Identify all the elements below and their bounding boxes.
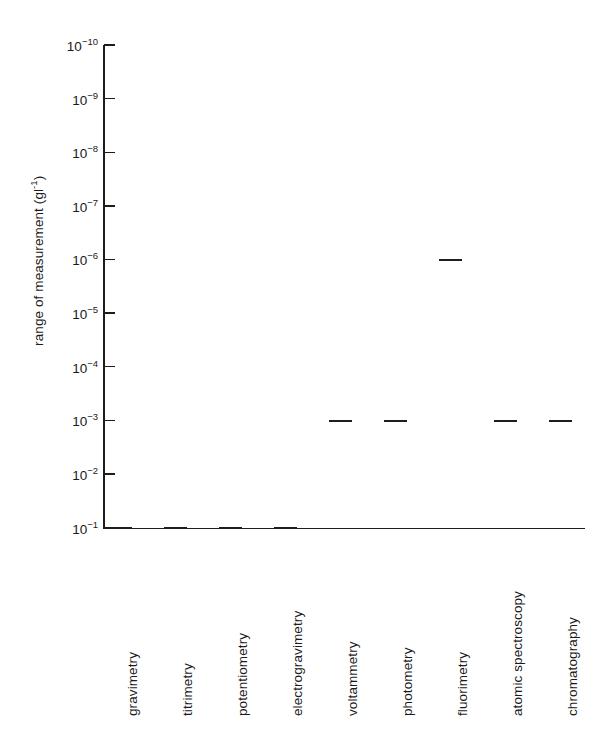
range-of-measurement-chart: range of measurement (gl-1) 10−1010−910−… xyxy=(0,0,607,736)
y-axis-tick-10 xyxy=(104,44,115,45)
category-label-photometry: photometry xyxy=(400,647,415,716)
y-axis-tick-label-6: 10−6 xyxy=(72,250,98,268)
y-axis-tick-label-7: 10−7 xyxy=(72,197,98,215)
y-axis-tick-label-8: 10−8 xyxy=(72,143,98,161)
y-axis-tick-label-10: 10−10 xyxy=(67,36,98,54)
category-label-gravimetry: gravimetry xyxy=(125,652,140,716)
y-axis-tick-label-4: 10−4 xyxy=(72,358,98,376)
y-axis-line xyxy=(103,45,105,529)
y-axis-tick-label-9: 10−9 xyxy=(72,90,98,108)
range-bar-lower-cap xyxy=(274,527,297,529)
category-label-fluorimetry: fluorimetry xyxy=(455,652,470,716)
range-bar-lower-cap xyxy=(494,420,517,422)
y-axis-tick-label-5: 10−5 xyxy=(72,304,98,322)
category-label-potentiometry: potentiometry xyxy=(235,633,250,716)
y-axis-tick-9 xyxy=(104,98,115,99)
category-label-voltammetry: voltammetry xyxy=(345,641,360,716)
range-bar-lower-cap xyxy=(329,420,352,422)
y-axis-tick-2 xyxy=(104,473,115,474)
range-bar-lower-cap xyxy=(219,527,242,529)
category-label-electrogravimetry: electrogravimetry xyxy=(290,611,305,716)
y-axis-tick-label-2: 10−2 xyxy=(72,465,98,483)
y-axis-tick-3 xyxy=(104,420,115,421)
category-label-atomic-spectroscopy: atomic spectroscopy xyxy=(510,591,525,716)
y-axis-tick-labels: 10−1010−910−810−710−610−510−410−310−210−… xyxy=(0,0,98,736)
range-bar-lower-cap xyxy=(109,527,132,529)
range-bar-lower-cap xyxy=(439,259,462,261)
y-axis-tick-4 xyxy=(104,366,115,367)
category-label-chromatography: chromatography xyxy=(565,617,580,716)
range-bar-lower-cap xyxy=(549,420,572,422)
category-label-titrimetry: titrimetry xyxy=(180,663,195,716)
y-axis-tick-8 xyxy=(104,152,115,153)
y-axis-tick-label-1: 10−1 xyxy=(72,519,98,537)
range-bar-lower-cap xyxy=(164,527,187,529)
y-axis-tick-5 xyxy=(104,312,115,313)
range-bar-lower-cap xyxy=(384,420,407,422)
y-axis-tick-label-3: 10−3 xyxy=(72,411,98,429)
y-axis-tick-7 xyxy=(104,205,115,206)
y-axis-tick-6 xyxy=(104,259,115,260)
